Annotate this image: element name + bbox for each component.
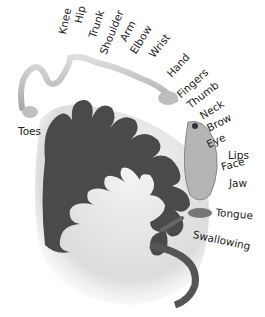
homunculus-tongue xyxy=(188,208,212,218)
label-toes: Toes xyxy=(18,126,41,137)
label-lips: Lips xyxy=(228,150,249,161)
homunculus-eye xyxy=(192,123,198,129)
label-jaw: Jaw xyxy=(229,178,247,189)
homunculus-face xyxy=(184,121,217,200)
homunculus-leg xyxy=(21,57,175,108)
homunculus-diagram: Knee Hip Trunk Shoulder Arm Elbow Wrist … xyxy=(0,0,265,317)
homunculus-foot xyxy=(22,106,38,118)
